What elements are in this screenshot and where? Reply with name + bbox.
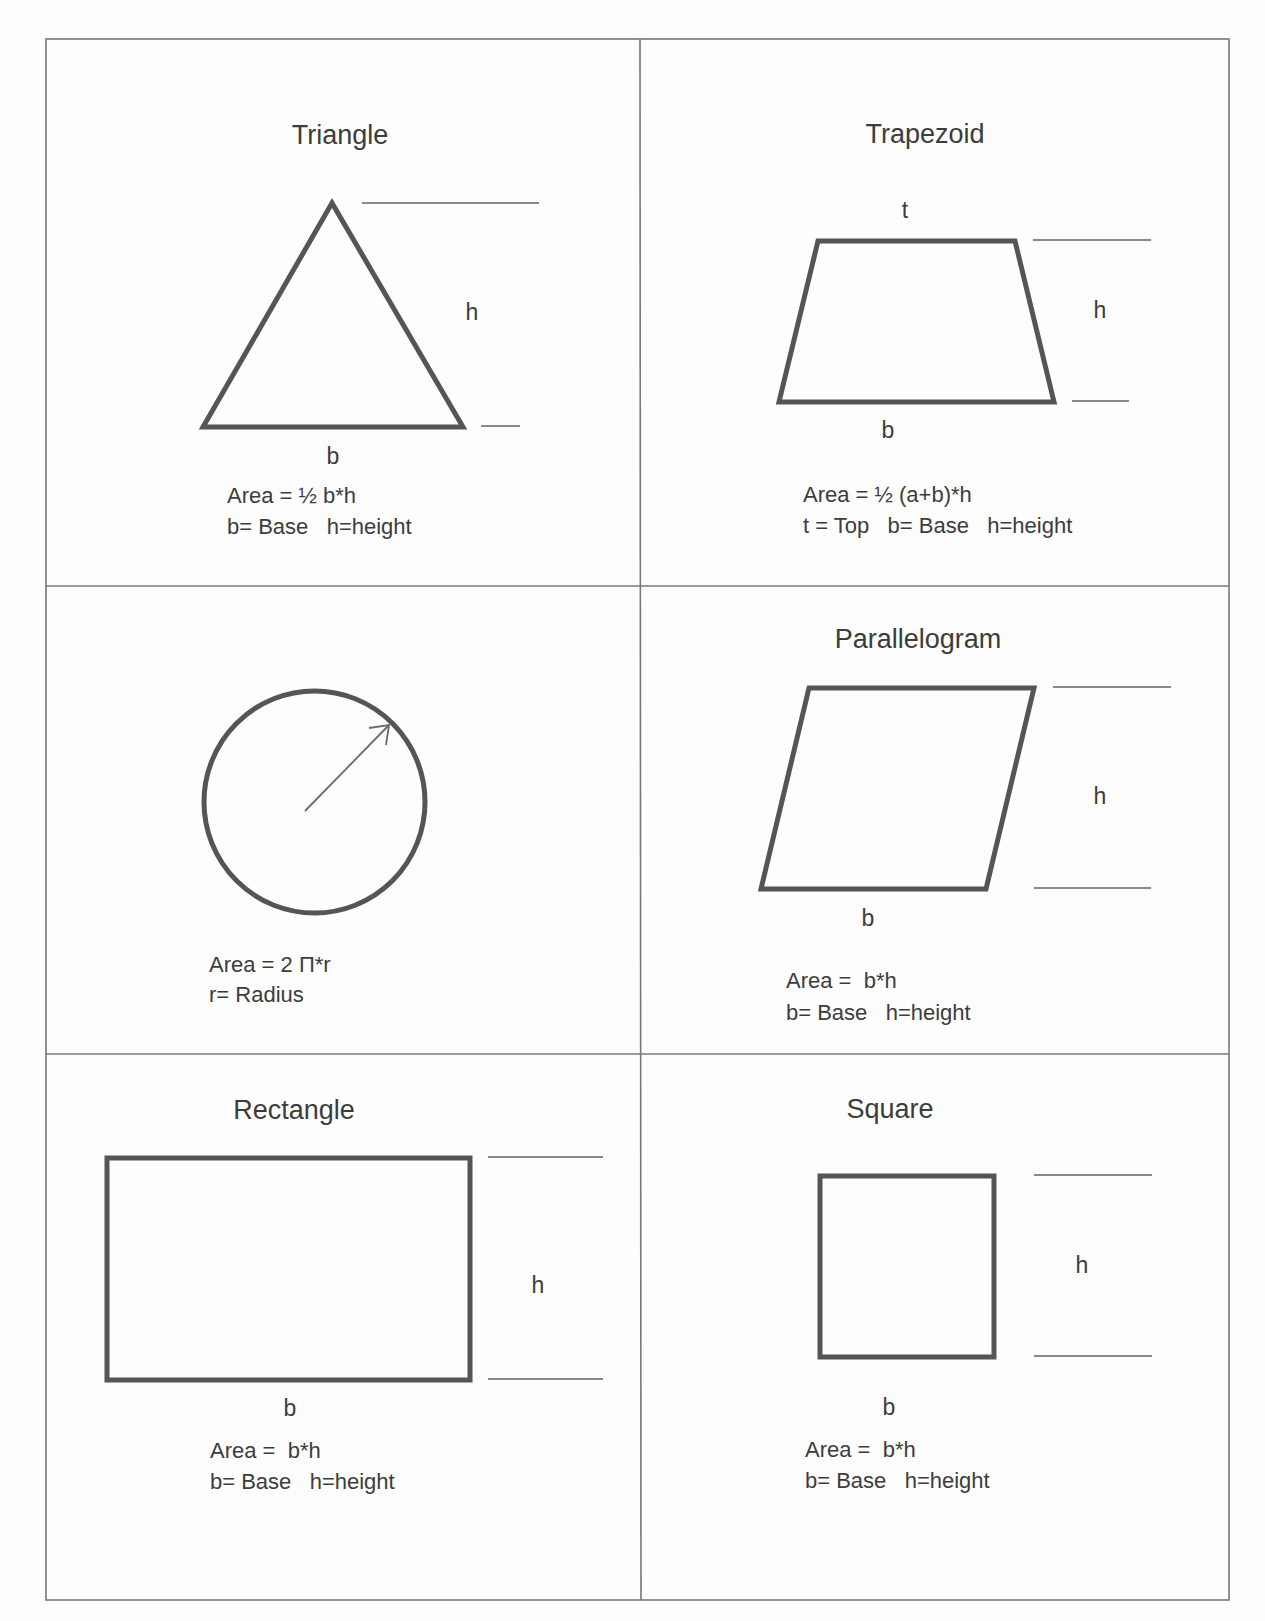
cell-circle: Area = 2 Π*r r= Radius xyxy=(204,691,425,1007)
variable-legend: t = Top b= Base h=height xyxy=(803,513,1072,538)
top-label: t xyxy=(902,197,909,223)
variable-legend: b= Base h=height xyxy=(227,514,412,539)
area-formula: Area = ½ (a+b)*h xyxy=(803,482,972,507)
cell-title: Triangle xyxy=(292,120,389,150)
base-label: b xyxy=(882,417,895,443)
cell-trapezoid: Trapezoid t h b Area = ½ (a+b)*h t = Top… xyxy=(779,119,1151,538)
height-label: h xyxy=(1094,783,1107,809)
base-label: b xyxy=(327,443,340,469)
cell-square: Square h b Area = b*h b= Base h=height xyxy=(805,1094,1152,1493)
height-label: h xyxy=(466,299,479,325)
square-shape xyxy=(820,1176,994,1357)
outer-border xyxy=(46,39,1229,1600)
variable-legend: r= Radius xyxy=(209,982,304,1007)
column-divider xyxy=(640,39,641,1600)
cell-title: Trapezoid xyxy=(865,119,984,149)
cell-title: Rectangle xyxy=(233,1095,355,1125)
rectangle-shape xyxy=(107,1158,470,1380)
cell-title: Square xyxy=(846,1094,933,1124)
worksheet-canvas: Triangle h b Area = ½ b*h b= Base h=heig… xyxy=(0,0,1265,1621)
parallelogram-shape xyxy=(761,688,1034,889)
variable-legend: b= Base h=height xyxy=(210,1469,395,1494)
base-label: b xyxy=(883,1394,896,1420)
cell-rectangle: Rectangle h b Area = b*h b= Base h=heigh… xyxy=(107,1095,603,1494)
area-formula: Area = b*h xyxy=(210,1438,321,1463)
area-formula: Area = b*h xyxy=(786,968,897,993)
height-label: h xyxy=(1094,297,1107,323)
trapezoid-shape xyxy=(779,241,1054,402)
geometry-area-worksheet: Triangle h b Area = ½ b*h b= Base h=heig… xyxy=(0,0,1265,1621)
cell-triangle: Triangle h b Area = ½ b*h b= Base h=heig… xyxy=(203,120,539,539)
base-label: b xyxy=(862,905,875,931)
cell-title: Parallelogram xyxy=(835,624,1002,654)
height-label: h xyxy=(532,1272,545,1298)
cell-parallelogram: Parallelogram h b Area = b*h b= Base h=h… xyxy=(761,624,1171,1025)
area-formula: Area = 2 Π*r xyxy=(209,952,331,977)
radius-arrow-icon xyxy=(305,725,389,811)
variable-legend: b= Base h=height xyxy=(805,1468,990,1493)
area-formula: Area = b*h xyxy=(805,1437,916,1462)
table-grid xyxy=(46,39,1229,1600)
height-label: h xyxy=(1076,1252,1089,1278)
triangle-shape xyxy=(203,203,463,427)
area-formula: Area = ½ b*h xyxy=(227,483,356,508)
variable-legend: b= Base h=height xyxy=(786,1000,971,1025)
base-label: b xyxy=(284,1395,297,1421)
